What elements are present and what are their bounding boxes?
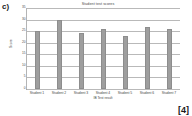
bar (167, 29, 172, 89)
x-axis-tick-label: Student 6 (136, 91, 158, 95)
y-axis-tick-label: 5 (24, 76, 26, 79)
y-axis-tick-label: 15 (22, 53, 26, 56)
plot-area: 05101520253035 (26, 8, 180, 90)
x-axis-tick-labels: Student 1Student 2Student 3Student 4Stud… (26, 91, 180, 95)
bar-series (27, 8, 180, 89)
y-axis-tick-label: 10 (22, 64, 26, 67)
y-axis-title: Score (9, 39, 13, 48)
bar (145, 27, 150, 89)
bar (123, 36, 128, 89)
bar-slot (71, 8, 93, 89)
question-label: c) (2, 2, 9, 12)
x-axis-tick-label: Student 5 (114, 91, 136, 95)
bar-chart: Student test scores Score 05101520253035… (10, 2, 186, 108)
bar-slot (93, 8, 115, 89)
y-axis-tick-label: 20 (22, 41, 26, 44)
y-axis-tick-label: 30 (22, 18, 26, 21)
y-axis-tick-label: 35 (22, 6, 26, 9)
x-axis-tick-label: Student 3 (70, 91, 92, 95)
x-axis-title: IB Test result (26, 96, 180, 100)
marks-allocation: [4] (178, 105, 189, 115)
y-axis-tick-label: 25 (22, 29, 26, 32)
x-axis-tick-label: Student 7 (158, 91, 180, 95)
gridline (27, 89, 180, 90)
x-axis-tick-label: Student 4 (92, 91, 114, 95)
x-axis-tick-label: Student 2 (48, 91, 70, 95)
bar-slot (136, 8, 158, 89)
x-axis-tick-label: Student 1 (26, 91, 48, 95)
bar-slot (158, 8, 180, 89)
bar-slot (114, 8, 136, 89)
bar (57, 20, 62, 89)
bar-slot (49, 8, 71, 89)
bar (35, 31, 40, 89)
bar (79, 33, 84, 89)
bar (101, 29, 106, 89)
chart-screenshot: c) Student test scores Score 05101520253… (0, 0, 192, 116)
chart-title: Student test scores (10, 2, 186, 7)
bar-slot (27, 8, 49, 89)
